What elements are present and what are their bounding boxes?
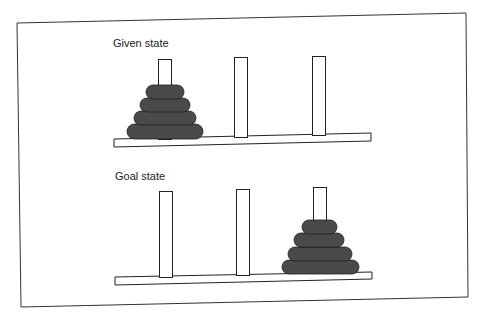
tower-of-hanoi-figure: Given state Goal state	[0, 0, 479, 316]
goal-state-panel: Goal state	[115, 170, 372, 285]
disk-size-1	[146, 85, 184, 99]
disk-size-4	[282, 260, 359, 274]
peg-1	[160, 192, 173, 278]
disk-size-3	[288, 247, 352, 261]
goal-state-disks	[282, 220, 359, 274]
goal-state-label: Goal state	[115, 170, 165, 182]
disk-size-2	[294, 233, 344, 247]
given-state-label: Given state	[113, 37, 169, 49]
disk-size-3	[134, 111, 196, 125]
peg-2	[237, 190, 250, 276]
disk-size-4	[127, 124, 203, 139]
disk-size-2	[140, 98, 190, 112]
peg-3	[313, 57, 326, 136]
peg-2	[235, 58, 248, 138]
disk-size-1	[302, 220, 337, 234]
given-state-disks	[127, 85, 203, 139]
given-state-panel: Given state	[113, 37, 371, 147]
